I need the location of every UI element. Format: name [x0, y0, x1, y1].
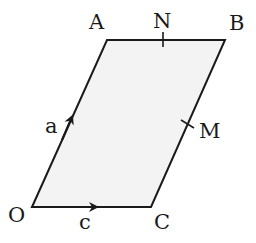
vertex-label-c: C	[154, 210, 170, 234]
parallelogram-shape	[32, 40, 225, 207]
vector-label-a: a	[45, 114, 58, 138]
midpoint-label-n: N	[153, 9, 171, 33]
vertex-label-a: A	[88, 10, 105, 34]
vertex-label-o: O	[8, 203, 25, 227]
parallelogram-diagram: O A B C N M a c	[0, 0, 256, 243]
midpoint-label-m: M	[199, 119, 221, 143]
vector-label-c: c	[79, 210, 91, 234]
vertex-label-b: B	[229, 11, 244, 35]
